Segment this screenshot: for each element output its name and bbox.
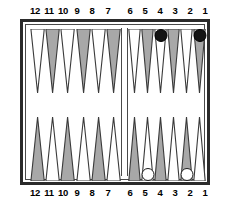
checker-black[interactable] xyxy=(154,29,167,42)
point-5-top[interactable] xyxy=(141,29,154,95)
point-label-top-6: 6 xyxy=(123,4,137,18)
point-12-top[interactable] xyxy=(30,29,45,95)
point-3-top[interactable] xyxy=(167,29,180,95)
point-label-bottom-12: 12 xyxy=(28,186,42,200)
triangle-plain-icon xyxy=(45,115,60,181)
triangle-shaded-icon xyxy=(76,29,91,95)
triangle-plain-icon xyxy=(106,115,121,181)
point-label-top-1: 1 xyxy=(198,4,212,18)
point-label-bottom-10: 10 xyxy=(56,186,70,200)
point-label-bottom-3: 3 xyxy=(168,186,182,200)
point-2-bottom[interactable] xyxy=(180,115,193,181)
point-label-top-10: 10 xyxy=(56,4,70,18)
point-label-bottom-7: 7 xyxy=(101,186,115,200)
point-11-top[interactable] xyxy=(45,29,60,95)
top-left-label-group: 12 11 10 9 8 7 xyxy=(0,4,116,18)
point-label-top-4: 4 xyxy=(153,4,167,18)
point-4-bottom[interactable] xyxy=(154,115,167,181)
point-5-bottom[interactable] xyxy=(141,115,154,181)
triangle-shaded-icon xyxy=(60,115,75,181)
point-label-bottom-9: 9 xyxy=(70,186,84,200)
point-label-top-9: 9 xyxy=(70,4,84,18)
bottom-right-quadrant xyxy=(128,115,206,181)
board-outer-frame xyxy=(20,19,210,185)
checker-white[interactable] xyxy=(180,168,193,181)
point-3-bottom[interactable] xyxy=(167,115,180,181)
point-label-bottom-5: 5 xyxy=(138,186,152,200)
triangle-shaded-icon xyxy=(106,29,121,95)
triangle-shaded-icon xyxy=(91,115,106,181)
point-1-top[interactable] xyxy=(193,29,206,95)
point-label-top-3: 3 xyxy=(168,4,182,18)
triangle-plain-icon xyxy=(128,29,141,95)
point-1-bottom[interactable] xyxy=(193,115,206,181)
triangle-plain-icon xyxy=(180,29,193,95)
point-2-top[interactable] xyxy=(180,29,193,95)
triangle-shaded-icon xyxy=(128,115,141,181)
point-7-bottom[interactable] xyxy=(106,115,121,181)
triangle-plain-icon xyxy=(76,115,91,181)
triangle-plain-icon xyxy=(60,29,75,95)
point-8-bottom[interactable] xyxy=(91,115,106,181)
top-right-quadrant xyxy=(128,29,206,95)
point-label-top-11: 11 xyxy=(42,4,56,18)
point-9-top[interactable] xyxy=(76,29,91,95)
point-10-top[interactable] xyxy=(60,29,75,95)
triangle-shaded-icon xyxy=(167,29,180,95)
point-4-top[interactable] xyxy=(154,29,167,95)
triangle-plain-icon xyxy=(30,29,45,95)
checker-white[interactable] xyxy=(141,168,154,181)
top-right-label-group: 6 5 4 3 2 1 xyxy=(116,4,228,18)
triangle-shaded-icon xyxy=(141,29,154,95)
caption-sliver xyxy=(4,200,224,206)
point-label-top-5: 5 xyxy=(138,4,152,18)
top-left-quadrant xyxy=(30,29,121,95)
bottom-left-quadrant xyxy=(30,115,121,181)
triangle-shaded-icon xyxy=(30,115,45,181)
checker-black[interactable] xyxy=(193,29,206,42)
top-label-row: 12 11 10 9 8 7 6 5 4 3 2 1 xyxy=(0,4,228,18)
point-label-top-12: 12 xyxy=(28,4,42,18)
point-7-top[interactable] xyxy=(106,29,121,95)
point-label-top-8: 8 xyxy=(85,4,99,18)
point-label-bottom-2: 2 xyxy=(183,186,197,200)
triangle-plain-icon xyxy=(91,29,106,95)
point-label-top-2: 2 xyxy=(183,4,197,18)
point-12-bottom[interactable] xyxy=(30,115,45,181)
point-label-top-7: 7 xyxy=(101,4,115,18)
center-bar xyxy=(121,28,128,176)
point-label-bottom-1: 1 xyxy=(198,186,212,200)
point-label-bottom-6: 6 xyxy=(123,186,137,200)
point-9-bottom[interactable] xyxy=(76,115,91,181)
point-6-bottom[interactable] xyxy=(128,115,141,181)
point-10-bottom[interactable] xyxy=(60,115,75,181)
board-inner-frame xyxy=(25,24,205,180)
bottom-right-label-group: 6 5 4 3 2 1 xyxy=(116,186,228,200)
triangle-shaded-icon xyxy=(154,115,167,181)
point-8-top[interactable] xyxy=(91,29,106,95)
point-label-bottom-11: 11 xyxy=(42,186,56,200)
triangle-plain-icon xyxy=(167,115,180,181)
point-11-bottom[interactable] xyxy=(45,115,60,181)
backgammon-board-figure: 12 11 10 9 8 7 6 5 4 3 2 1 xyxy=(0,0,228,206)
bottom-left-label-group: 12 11 10 9 8 7 xyxy=(0,186,116,200)
point-label-bottom-8: 8 xyxy=(85,186,99,200)
triangle-plain-icon xyxy=(193,115,206,181)
point-label-bottom-4: 4 xyxy=(153,186,167,200)
triangle-shaded-icon xyxy=(45,29,60,95)
point-6-top[interactable] xyxy=(128,29,141,95)
bottom-label-row: 12 11 10 9 8 7 6 5 4 3 2 1 xyxy=(0,186,228,200)
